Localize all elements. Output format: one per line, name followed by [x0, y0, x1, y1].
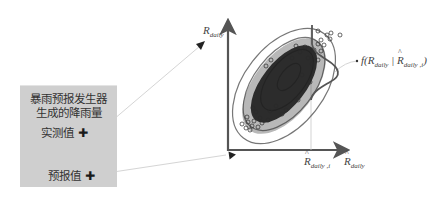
conditional-density-label: f(Rdaily | Rdaily ,i) — [361, 54, 427, 69]
forecast-value-label: 预报值✚ — [48, 167, 95, 183]
observed-plus-marker: ✚ — [78, 126, 88, 140]
generator-title-line2: 生成的降雨量 — [20, 106, 117, 120]
generator-title: 暴雨预报发生器 生成的降雨量 — [20, 92, 117, 120]
observed-value-label: 实测值✚ — [41, 124, 88, 140]
forecast-plus-marker: ✚ — [85, 169, 95, 183]
generator-title-line1: 暴雨预报发生器 — [20, 92, 117, 106]
density-connector-line — [335, 60, 358, 72]
rainfall-generator-box: 暴雨预报发生器 生成的降雨量 实测值✚ 预报值✚ — [20, 85, 117, 187]
y-axis-label: Rdaily — [203, 24, 224, 39]
x-axis-label: Rdaily — [344, 155, 365, 170]
x-tick-label: Rdaily ,i — [304, 155, 330, 170]
forecast-connector-line — [100, 150, 237, 174]
